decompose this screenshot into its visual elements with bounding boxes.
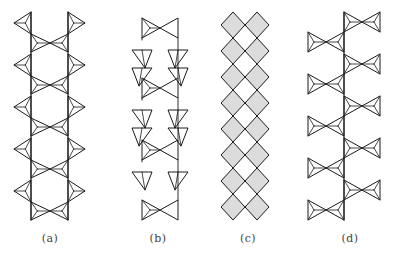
left-diamond [221, 168, 245, 194]
panel-c-label: (c) [240, 232, 256, 245]
tetrahedron [160, 78, 178, 98]
panel-b-zigzag-chain [132, 18, 188, 220]
panel-a-double-chain [14, 12, 85, 220]
left-diamond [221, 12, 245, 38]
panel-c-diamond-ladder [221, 12, 269, 220]
tetrahedron [132, 110, 152, 128]
tetrahedron [160, 200, 178, 220]
panel-d-label: (d) [341, 232, 358, 245]
left-diamond [221, 142, 245, 168]
panel-d-branched-chain [308, 12, 380, 220]
panel-a-label: (a) [42, 232, 59, 245]
panel-b-label: (b) [149, 232, 166, 245]
left-diamond [221, 116, 245, 142]
right-diamond [245, 12, 269, 38]
right-diamond [245, 90, 269, 116]
right-diamond [245, 64, 269, 90]
right-diamond [245, 194, 269, 220]
left-diamond [221, 90, 245, 116]
tetrahedron [132, 172, 152, 190]
tetrahedron [160, 18, 178, 38]
tetrahedron [132, 50, 152, 68]
left-diamond [221, 194, 245, 220]
right-diamond [245, 38, 269, 64]
silicate-chain-figure [0, 0, 394, 254]
left-diamond [221, 38, 245, 64]
left-diamond [221, 64, 245, 90]
right-diamond [245, 168, 269, 194]
tetrahedron [160, 140, 178, 160]
right-diamond [245, 142, 269, 168]
right-diamond [245, 116, 269, 142]
